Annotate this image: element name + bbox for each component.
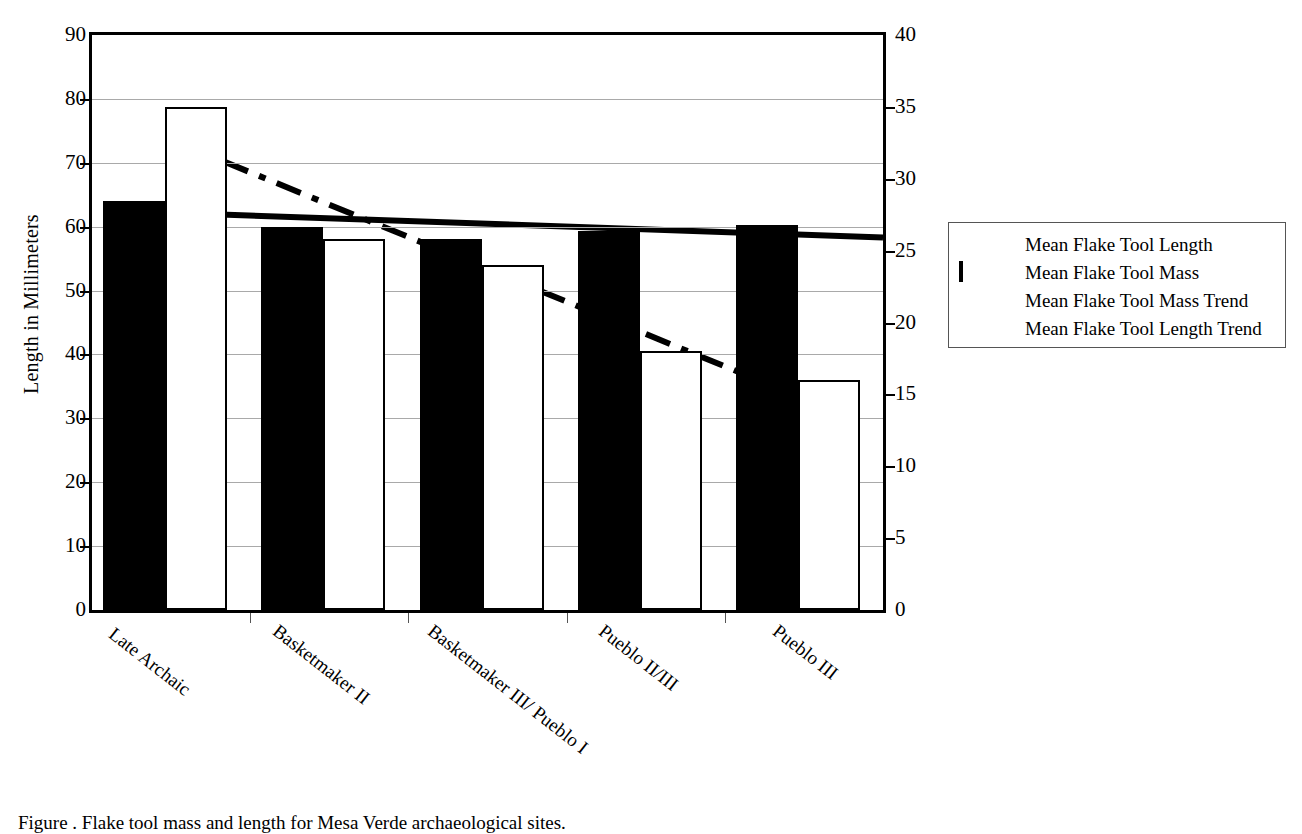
- right-tick-mark: [886, 394, 895, 396]
- left-tick-mark: [80, 163, 89, 165]
- x-axis-tick-mark: [408, 613, 409, 623]
- left-tick-mark: [80, 482, 89, 484]
- right-tick-label: 30: [895, 168, 941, 189]
- bar-mean-flake-tool-length: [103, 201, 165, 610]
- dashed-line-key-icon: [959, 291, 1021, 311]
- bar-mean-flake-tool-length: [736, 225, 798, 610]
- bar-mean-flake-tool-length: [578, 231, 640, 610]
- bar-mean-flake-tool-mass: [482, 265, 544, 610]
- x-axis-tick-mark: [567, 613, 568, 623]
- legend-label: Mean Flake Tool Mass Trend: [1025, 291, 1248, 311]
- legend-item-mean-flake-tool-mass: Mean Flake Tool Mass: [959, 259, 1285, 287]
- right-tick-label: 35: [895, 96, 941, 117]
- gridline: [92, 99, 883, 100]
- right-tick-mark: [886, 538, 895, 540]
- right-tick-label: 5: [895, 527, 941, 548]
- right-tick-mark: [886, 466, 895, 468]
- bar-mean-flake-tool-mass: [165, 107, 227, 610]
- right-tick-mark: [886, 323, 895, 325]
- right-tick-mark: [886, 251, 895, 253]
- bar-mean-flake-tool-mass: [798, 380, 860, 610]
- right-tick-mark: [886, 179, 895, 181]
- right-tick-mark: [886, 107, 895, 109]
- plot-area: [89, 32, 886, 613]
- x-axis-tick-mark: [250, 613, 251, 623]
- x-axis-category-label: Basketmaker III/ Pueblo I: [423, 620, 592, 759]
- solid-line-key-icon: [959, 319, 1021, 339]
- right-tick-label: 10: [895, 455, 941, 476]
- legend-label: Mean Flake Tool Length: [1025, 235, 1213, 255]
- x-axis-category-label: Basketmaker II: [268, 620, 373, 709]
- left-tick-mark: [80, 291, 89, 293]
- left-tick-label: 90: [40, 24, 86, 45]
- left-tick-mark: [80, 99, 89, 101]
- left-tick-mark: [80, 418, 89, 420]
- x-axis-category-label: Pueblo II/III: [594, 620, 682, 695]
- bar-mean-flake-tool-mass: [323, 239, 385, 610]
- bar-mean-flake-tool-mass: [640, 351, 702, 610]
- right-tick-label: 25: [895, 240, 941, 261]
- x-axis-tick-mark: [725, 613, 726, 623]
- left-tick-mark: [80, 227, 89, 229]
- figure-caption: Figure . Flake tool mass and length for …: [18, 812, 1218, 834]
- left-tick-mark: [80, 546, 89, 548]
- right-tick-label: 0: [895, 599, 941, 620]
- legend-label: Mean Flake Tool Length Trend: [1025, 319, 1262, 339]
- bar-mean-flake-tool-length: [420, 239, 482, 610]
- legend-item-mean-flake-tool-mass-trend: Mean Flake Tool Mass Trend: [959, 287, 1285, 315]
- solid-bar-key-icon: [959, 235, 1021, 255]
- chart-legend: Mean Flake Tool Length Mean Flake Tool M…: [948, 222, 1286, 348]
- open-bar-key-icon: [959, 263, 1021, 283]
- left-tick-mark: [80, 354, 89, 356]
- left-tick-label: 0: [40, 599, 86, 620]
- x-axis-category-label: Pueblo III: [768, 620, 842, 684]
- x-axis-category-label: Late Archaic: [104, 623, 194, 700]
- right-tick-label: 40: [895, 24, 941, 45]
- right-tick-label: 15: [895, 383, 941, 404]
- legend-item-mean-flake-tool-length-trend: Mean Flake Tool Length Trend: [959, 315, 1285, 343]
- bar-mean-flake-tool-length: [261, 227, 323, 610]
- legend-item-mean-flake-tool-length: Mean Flake Tool Length: [959, 231, 1285, 259]
- legend-label: Mean Flake Tool Mass: [1025, 263, 1199, 283]
- right-tick-label: 20: [895, 312, 941, 333]
- plot-inner: [92, 35, 883, 610]
